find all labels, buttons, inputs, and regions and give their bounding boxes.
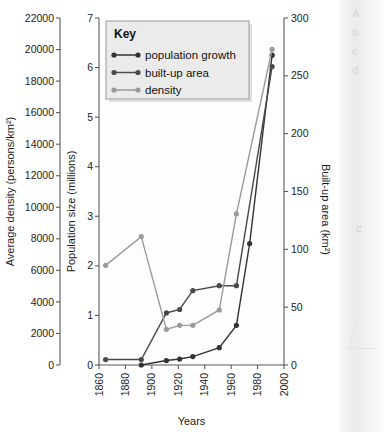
year-tick-label: 1980 — [251, 373, 263, 397]
population-axis: 01234567Population size (millions) — [65, 12, 99, 371]
data-point — [190, 354, 195, 359]
population-tick-label: 6 — [87, 61, 93, 73]
builtup-tick-label: 100 — [291, 243, 309, 255]
x-axis-title: Years — [178, 415, 206, 427]
density-tick-label: 22000 — [25, 12, 54, 24]
data-point — [139, 362, 144, 367]
builtup-tick-label: 250 — [291, 69, 309, 81]
data-point — [190, 288, 195, 293]
population-tick-label: 1 — [87, 309, 93, 321]
builtup-axis: 050100150200250300Built-up area (km²) — [284, 12, 332, 371]
data-point — [164, 358, 169, 363]
density-tick-label: 18000 — [25, 75, 54, 87]
year-tick-label: 2000 — [278, 373, 290, 397]
legend-item-label: built-up area — [145, 67, 210, 79]
population-tick-label: 0 — [87, 359, 93, 371]
legend-item-label: density — [145, 84, 182, 96]
data-point — [247, 241, 252, 246]
legend-item-label: population growth — [145, 49, 236, 61]
data-point — [234, 283, 239, 288]
population-tick-label: 2 — [87, 259, 93, 271]
density-axis: 0200040006000800010000120001400016000180… — [4, 12, 60, 371]
data-point — [103, 357, 108, 362]
density-axis-title: Average density (persons/km²) — [4, 117, 16, 267]
data-point — [103, 263, 108, 268]
year-tick-label: 1920 — [172, 373, 184, 397]
builtup-tick-label: 150 — [291, 185, 309, 197]
density-tick-label: 10000 — [25, 201, 54, 213]
density-tick-label: 14000 — [25, 138, 54, 150]
data-point — [177, 323, 182, 328]
population-tick-label: 7 — [87, 12, 93, 24]
builtup-axis-title: Built-up area (km²) — [320, 164, 332, 255]
population-tick-label: 5 — [87, 111, 93, 123]
population-tick-label: 3 — [87, 210, 93, 222]
density-tick-label: 8000 — [31, 232, 55, 244]
line-chart: 0200040006000800010000120001400016000180… — [0, 0, 384, 432]
data-point — [217, 345, 222, 350]
density-tick-label: 0 — [48, 359, 54, 371]
data-point — [177, 356, 182, 361]
chart-legend: Keypopulation growthbuilt-up areadensity — [106, 21, 252, 102]
legend-title: Key — [114, 27, 136, 41]
builtup-tick-label: 50 — [291, 301, 303, 313]
density-tick-label: 6000 — [31, 264, 55, 276]
population-axis-title: Population size (millions) — [65, 151, 77, 273]
density-tick-label: 12000 — [25, 169, 54, 181]
population-tick-label: 4 — [87, 160, 93, 172]
data-point — [177, 307, 182, 312]
density-tick-label: 4000 — [31, 296, 55, 308]
data-point — [164, 327, 169, 332]
density-tick-label: 2000 — [31, 327, 55, 339]
year-tick-label: 1860 — [93, 373, 105, 397]
builtup-tick-label: 200 — [291, 127, 309, 139]
data-point — [139, 234, 144, 239]
builtup-tick-label: 0 — [291, 359, 297, 371]
data-point — [217, 307, 222, 312]
data-point — [217, 283, 222, 288]
data-point — [270, 64, 275, 69]
data-point — [190, 323, 195, 328]
data-point — [270, 47, 275, 52]
data-point — [139, 357, 144, 362]
builtup-tick-label: 300 — [291, 12, 309, 24]
data-point — [234, 323, 239, 328]
year-tick-label: 1940 — [198, 373, 210, 397]
year-tick-label: 1960 — [225, 373, 237, 397]
year-tick-label: 1900 — [145, 373, 157, 397]
figure-container: A b c d c 020004000600080001000012000140… — [0, 0, 384, 432]
year-tick-label: 1880 — [119, 373, 131, 397]
x-axis: 18601880190019201940196019802000Years — [93, 365, 290, 427]
density-tick-label: 20000 — [25, 43, 54, 55]
density-tick-label: 16000 — [25, 106, 54, 118]
data-point — [234, 211, 239, 216]
data-point — [164, 310, 169, 315]
